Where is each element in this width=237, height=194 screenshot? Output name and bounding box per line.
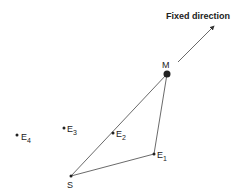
label-e2: E2: [116, 129, 126, 141]
point-e1: [153, 153, 156, 156]
point-e3: [63, 127, 66, 130]
fixed-direction-arrow: [178, 26, 214, 62]
point-m: [164, 71, 171, 78]
fixed-direction-label: Fixed direction: [166, 11, 230, 21]
point-s: [70, 175, 73, 178]
label-s: S: [67, 180, 73, 190]
point-e4: [16, 134, 19, 137]
point-e2: [112, 132, 115, 135]
label-m: M: [162, 60, 170, 70]
label-e3: E3: [67, 124, 77, 136]
line-s-m: [71, 74, 167, 176]
diagram-canvas: Fixed direction M S E1 E2 E3 E4: [0, 0, 237, 194]
label-e1: E1: [157, 150, 167, 162]
label-e4: E4: [21, 132, 31, 144]
line-s-e1: [71, 154, 154, 176]
